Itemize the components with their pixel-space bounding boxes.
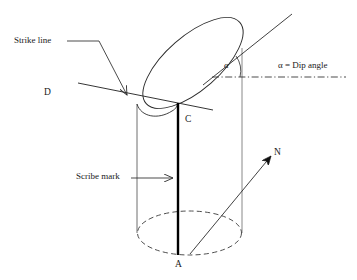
scribe-mark-label: Scribe mark	[76, 172, 120, 181]
north-label: N	[274, 148, 281, 158]
alpha-angle-symbol: α	[224, 61, 229, 70]
strike-line-label: Strike line	[14, 36, 51, 45]
point-c-label: C	[185, 115, 191, 125]
diagram-canvas	[0, 0, 357, 280]
point-d-label: D	[44, 88, 51, 98]
dip-angle-legend: α = Dip angle	[278, 61, 328, 70]
cylinder-top-front-arc	[137, 103, 178, 116]
north-arrow	[190, 156, 271, 254]
dip-direction-line	[203, 14, 292, 85]
alpha-angle-arc	[236, 56, 241, 77]
point-a-label: A	[175, 260, 182, 270]
cylinder-bottom-ellipse	[138, 211, 242, 255]
core-cylinder	[137, 48, 242, 255]
dip-angle-diagram: Strike line D C A N Scribe mark α α = Di…	[0, 0, 357, 280]
